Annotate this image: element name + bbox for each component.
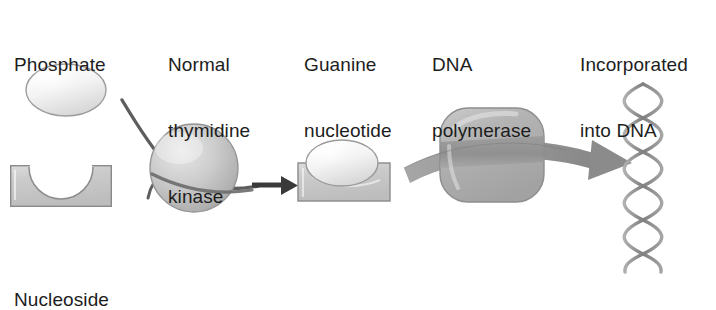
label-guanine-nucleotide: Guanine nucleotide	[304, 10, 392, 186]
product-arrow	[252, 176, 298, 195]
label-dna-polymerase-line-1: DNA	[432, 54, 531, 76]
label-incorporated-into-dna: Incorporated into DNA	[580, 10, 688, 186]
label-phosphate: Phosphate	[14, 10, 106, 120]
label-incorporated-line-1: Incorporated	[580, 54, 688, 76]
label-incorporated-line-2: into DNA	[580, 120, 688, 142]
label-nucleoside: Nucleoside	[14, 245, 109, 310]
label-dna-polymerase-line-2: polymerase	[432, 120, 531, 142]
label-phosphate-line-1: Phosphate	[14, 54, 106, 76]
label-thymidine-kinase-line-3: kinase	[168, 186, 250, 208]
product-arrow-head	[281, 176, 298, 195]
label-thymidine-kinase-line-2: thymidine	[168, 120, 250, 142]
label-dna-polymerase: DNA polymerase	[432, 10, 531, 186]
nucleoside-block	[10, 165, 112, 207]
label-nucleoside-line-1: Nucleoside	[14, 289, 109, 310]
label-thymidine-kinase: Normal thymidine kinase	[168, 10, 250, 252]
label-guanine-nucleotide-line-1: Guanine	[304, 54, 392, 76]
label-thymidine-kinase-line-1: Normal	[168, 54, 250, 76]
nucleoside-block-group	[10, 165, 112, 207]
label-guanine-nucleotide-line-2: nucleotide	[304, 120, 392, 142]
